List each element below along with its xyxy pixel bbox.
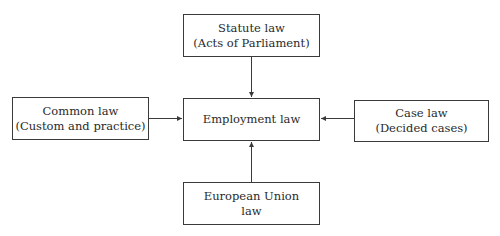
connector-arrows xyxy=(0,0,500,236)
